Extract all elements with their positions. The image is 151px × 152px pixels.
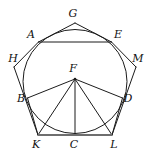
segment-F-L xyxy=(75,79,112,135)
point-label-K: K xyxy=(32,139,40,150)
segment-F-D xyxy=(75,79,123,98)
geometry-figure: G H M K L A E B D F C xyxy=(0,0,151,152)
segment-B-F xyxy=(28,79,76,98)
figure-canvas xyxy=(0,0,151,152)
point-label-D: D xyxy=(124,93,133,104)
point-label-A: A xyxy=(27,29,35,40)
point-label-L: L xyxy=(110,139,117,150)
segment-F-K xyxy=(38,79,75,135)
point-label-B: B xyxy=(17,93,25,104)
segment-G-E xyxy=(75,23,112,42)
point-label-C: C xyxy=(70,139,78,150)
segment-G-A xyxy=(39,23,76,42)
point-label-E: E xyxy=(114,29,122,40)
point-label-H: H xyxy=(8,53,18,64)
point-label-F: F xyxy=(69,63,77,74)
point-label-M: M xyxy=(132,53,143,64)
vertex-dot-F xyxy=(74,78,77,81)
point-label-G: G xyxy=(69,8,78,19)
